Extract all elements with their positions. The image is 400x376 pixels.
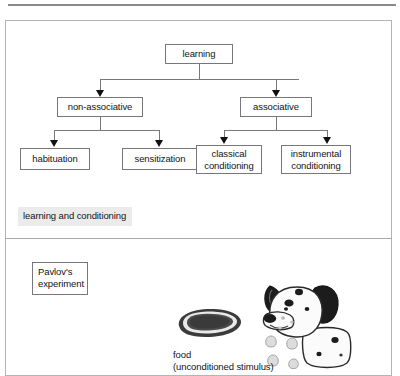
food-label: food (unconditioned stimulus) [173, 349, 274, 373]
tree-node-associative: associative [240, 97, 312, 117]
upper-panel-caption: learning and conditioning [18, 207, 132, 226]
arrowhead-icon-non-associative [96, 90, 104, 97]
connector-associative-bus [224, 130, 328, 131]
tree-node-instrumental-conditioning: instrumental conditioning [281, 145, 351, 174]
arrowhead-icon-associative [272, 90, 280, 97]
arrowhead-icon-sensitization [155, 140, 163, 147]
header-rule [8, 4, 396, 6]
tree-node-classical-conditioning: classical conditioning [196, 145, 262, 174]
connector-learning-bus [100, 79, 299, 80]
arrowhead-icon-habituation [50, 140, 58, 147]
lower-panel-caption: Pavlov's experiment [32, 262, 88, 295]
tree-node-sensitization: sensitization [122, 148, 198, 170]
tree-node-habituation: habituation [20, 148, 90, 170]
tree-node-non-associative: non-associative [57, 97, 143, 117]
connector-associative-stem [276, 117, 277, 130]
food-label-line2: (unconditioned stimulus) [173, 361, 274, 373]
connector-non-associative-stem [100, 117, 101, 130]
arrowhead-icon-instrumental-conditioning [323, 137, 331, 144]
connector-non-associative-bus [54, 130, 160, 131]
food-bowl-illustration [173, 302, 245, 342]
tree-node-learning: learning [165, 44, 233, 64]
connector-learning-stem [199, 64, 200, 79]
panel-divider [5, 238, 392, 239]
arrowhead-icon-classical-conditioning [220, 137, 228, 144]
food-label-line1: food [173, 349, 274, 361]
